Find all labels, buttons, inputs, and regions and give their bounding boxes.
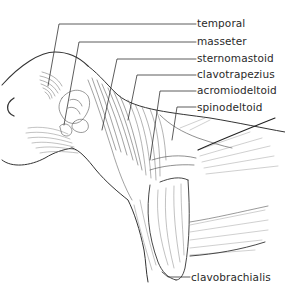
sternomastoid-muscle [88,78,142,200]
arm-fibers [134,184,184,270]
ear [8,98,14,116]
label-spinodeltoid: spinodeltoid [197,101,263,113]
lower-fan-muscle [190,210,268,255]
masseter-muscle [59,90,90,136]
label-sternomastoid: sternomastoid [197,52,274,64]
spinodeltoid-muscle [180,118,278,174]
label-clavotrapezius: clavotrapezius [197,68,275,80]
label-clavobrachialis: clavobrachialis [191,271,271,283]
clavotrapezius-muscle [128,100,166,180]
leader-clavotrapezius [128,75,196,120]
face-hatching [26,127,78,153]
leader-lines [48,24,196,277]
label-temporal: temporal [197,17,245,29]
label-masseter: masseter [197,35,247,47]
upper-arm [148,178,189,280]
label-acromiodeltoid: acromiodeltoid [197,84,277,96]
jaw [2,148,72,165]
head-outline [2,52,88,85]
leader-spinodeltoid [172,107,196,140]
temporal-muscle [40,72,62,99]
